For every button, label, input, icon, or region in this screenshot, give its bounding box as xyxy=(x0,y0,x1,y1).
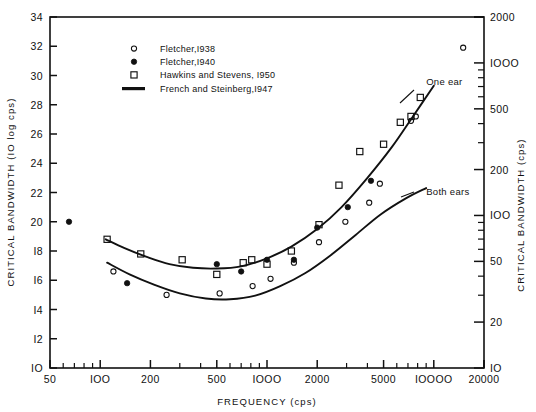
annotation-label: One ear xyxy=(426,76,462,87)
one-ear-leader xyxy=(400,90,414,103)
y-tick-label-left: 22 xyxy=(31,187,43,199)
y-tick-label-left: 32 xyxy=(31,40,43,52)
y-tick-label-left: I4 xyxy=(33,304,43,316)
x-axis-tick-labels: 50IOO200500IOOO20005000IOOOO20000 xyxy=(44,373,500,385)
y-tick-label-right: 2000 xyxy=(490,11,515,23)
x-axis-title: FREQUENCY (cps) xyxy=(217,396,317,407)
data-point xyxy=(111,269,116,274)
data-point xyxy=(124,280,129,285)
data-point xyxy=(250,284,255,289)
series-fletcher-i940 xyxy=(66,178,373,286)
curve-annotations: One earBoth ears xyxy=(400,76,470,197)
data-point xyxy=(316,240,321,245)
y-tick-label-right: 500 xyxy=(490,103,509,115)
data-point xyxy=(164,292,169,297)
data-point xyxy=(357,148,363,154)
x-tick-label: 50 xyxy=(44,373,56,385)
y-tick-label-left: I8 xyxy=(33,245,43,257)
y-tick-label-right: 20 xyxy=(490,316,502,328)
y-tick-label-left: 20 xyxy=(31,216,43,228)
y-axis-right-ticks xyxy=(474,17,484,368)
y-tick-label-left: I6 xyxy=(33,274,43,286)
x-tick-label: 20000 xyxy=(468,373,499,385)
data-point xyxy=(268,276,273,281)
data-point xyxy=(214,261,219,266)
y-tick-label-right: 200 xyxy=(490,164,509,176)
x-tick-label: IOOO xyxy=(252,373,281,385)
y-axis-left-tick-labels: IOI2I4I6I82022242628303234 xyxy=(31,11,43,374)
y-tick-label-right: IO xyxy=(490,362,502,374)
data-point xyxy=(66,219,71,224)
legend: Fletcher,I938Fletcher,I940Hawkins and St… xyxy=(122,44,275,94)
data-point xyxy=(264,257,269,262)
legend-marker-filled-circle xyxy=(131,59,136,64)
y-tick-label-left: 30 xyxy=(31,70,43,82)
x-tick-label: 500 xyxy=(207,373,226,385)
data-point xyxy=(417,94,423,100)
x-tick-label: IOO xyxy=(90,373,110,385)
annotation-label: Both ears xyxy=(426,186,469,197)
y-axis-left-ticks xyxy=(50,17,57,368)
x-tick-label: 5000 xyxy=(371,373,396,385)
data-point xyxy=(345,204,350,209)
x-axis-ticks xyxy=(50,360,484,368)
data-point xyxy=(336,182,342,188)
chart-canvas: 50IOO200500IOOO20005000IOOOO20000 IOI2I4… xyxy=(0,0,536,412)
legend-label: Fletcher,I938 xyxy=(160,44,215,54)
y-tick-label-left: 34 xyxy=(31,11,43,23)
x-tick-label: IOOOO xyxy=(415,373,453,385)
data-point xyxy=(238,269,243,274)
data-point xyxy=(291,257,296,262)
data-point xyxy=(380,141,386,147)
data-point xyxy=(461,45,466,50)
data-point xyxy=(397,119,403,125)
y-tick-label-left: 28 xyxy=(31,99,43,111)
legend-label: Hawkins and Stevens, I950 xyxy=(160,70,275,80)
data-point xyxy=(367,200,372,205)
y-tick-label-left: IO xyxy=(31,362,43,374)
data-point xyxy=(249,257,255,263)
legend-marker-open-square xyxy=(131,72,137,78)
curve-one-ear xyxy=(106,86,434,269)
y-tick-label-left: I2 xyxy=(33,333,43,345)
legend-label: French and Steinberg,I947 xyxy=(160,84,273,94)
data-point xyxy=(179,257,185,263)
y-tick-label-left: 26 xyxy=(31,128,43,140)
data-point xyxy=(377,181,382,186)
curve-both-ears xyxy=(107,188,426,299)
y-tick-label-right: IOO xyxy=(490,209,510,221)
data-point xyxy=(214,271,220,277)
y-axis-left-title: CRITICAL BANDWIDTH (IO log cps) xyxy=(5,98,16,287)
y-tick-label-right: IOOO xyxy=(490,57,519,69)
x-tick-label: 200 xyxy=(141,373,160,385)
legend-marker-open-circle xyxy=(131,46,136,51)
x-tick-label: 2000 xyxy=(305,373,330,385)
y-tick-label-right: 50 xyxy=(490,255,502,267)
data-point xyxy=(343,219,348,224)
legend-label: Fletcher,I940 xyxy=(160,57,215,67)
data-point xyxy=(368,178,373,183)
y-tick-label-left: 24 xyxy=(31,157,43,169)
series-hawkins-and-stevens-i950 xyxy=(104,94,423,277)
y-axis-right-title: CRITICAL BANDWIDTH (cps) xyxy=(515,138,526,291)
data-point xyxy=(217,291,222,296)
critical-bandwidth-figure: 50IOO200500IOOO20005000IOOOO20000 IOI2I4… xyxy=(0,0,536,412)
